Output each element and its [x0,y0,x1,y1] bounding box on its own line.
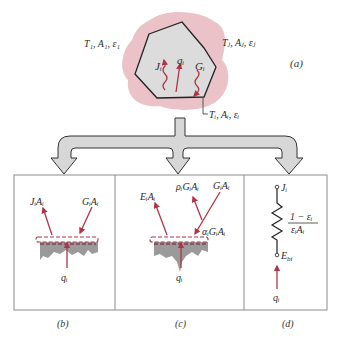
resistance-numerator: 1 − εᵢ [290,211,313,222]
caption-d: (d) [282,318,294,330]
emitted-label: EᵢAᵢ [139,191,156,202]
net-label: qᵢ [273,292,280,303]
panel-a: Jᵢ qᵢ Gᵢ T₁, A₁, ε₁ Tⱼ, Aⱼ, εⱼ Tᵢ, Aᵢ, ε… [84,12,303,120]
surface-1-label: T₁, A₁, ε₁ [84,38,120,49]
surface-j-label: Tⱼ, Aⱼ, εⱼ [222,37,256,48]
outgoing-label: JᵢAᵢ [30,196,44,207]
caption-a: (a) [290,57,303,70]
caption-c: (c) [175,318,187,330]
absorbed-label: αᵢGᵢAᵢ [202,226,226,237]
radiation-surface-diagram: Jᵢ qᵢ Gᵢ T₁, A₁, ε₁ Tⱼ, Aⱼ, εⱼ Tᵢ, Aᵢ, ε… [0,0,346,344]
irradiation-label: Gᵢ [195,60,205,72]
reflected-label: ρᵢGᵢAᵢ [175,181,199,192]
net-label: qᵢ [61,272,68,283]
resistance-denominator: εᵢAᵢ [291,224,305,235]
radiosity-label: Jᵢ [155,60,162,72]
blackbody-node-icon [275,253,279,257]
radiosity-node-label: Jᵢ [281,182,287,193]
incident-label: GᵢAᵢ [213,180,230,191]
branching-flow-arrow [51,118,303,174]
incoming-label: GᵢAᵢ [82,196,99,207]
net-label: qᵢ [176,272,183,283]
surface-i-label: Tᵢ, Aᵢ, εᵢ [209,109,240,120]
net-heat-label: qᵢ [177,54,185,66]
radiosity-node-icon [275,185,279,189]
caption-b: (b) [57,318,69,330]
